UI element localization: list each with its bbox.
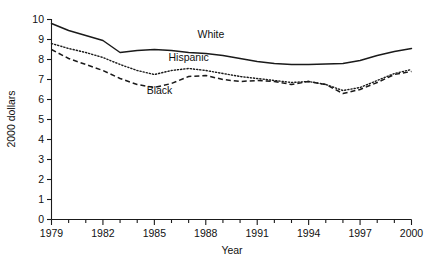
y-tick-label: 9 <box>38 33 44 45</box>
chart-figure: 012345678910 197919821985198819911994199… <box>0 0 428 262</box>
x-axis-title: Year <box>221 244 243 256</box>
series-line-hispanic <box>52 44 412 91</box>
chart-axes <box>52 19 412 220</box>
series-label-white: White <box>198 28 225 40</box>
x-axis-tick-labels: 19791982198519881991199419972000 <box>40 227 424 239</box>
y-axis-title: 2000 dollars <box>5 90 17 147</box>
line-chart-canvas: 012345678910 197919821985198819911994199… <box>0 0 428 262</box>
x-tick-label: 1979 <box>40 227 64 239</box>
y-tick-label: 5 <box>38 113 44 125</box>
x-tick-label: 1988 <box>194 227 218 239</box>
y-tick-label: 3 <box>38 153 44 165</box>
x-tick-label: 1991 <box>246 227 270 239</box>
y-tick-label: 0 <box>38 213 44 225</box>
y-tick-label: 10 <box>32 13 44 25</box>
y-axis-ticks <box>47 20 52 220</box>
y-tick-label: 8 <box>38 53 44 65</box>
y-tick-label: 1 <box>38 193 44 205</box>
series-label-hispanic: Hispanic <box>169 51 209 63</box>
series-line-black <box>52 50 412 94</box>
x-tick-label: 1997 <box>348 227 372 239</box>
y-tick-label: 4 <box>38 133 44 145</box>
y-axis-tick-labels: 012345678910 <box>32 13 44 225</box>
series-inline-labels: WhiteHispanicBlack <box>147 28 225 96</box>
series-label-black: Black <box>147 84 173 96</box>
chart-series-group <box>52 24 412 94</box>
x-axis-ticks <box>52 220 412 226</box>
y-tick-label: 2 <box>38 173 44 185</box>
y-tick-label: 7 <box>38 73 44 85</box>
y-tick-label: 6 <box>38 93 44 105</box>
x-tick-label: 1985 <box>143 227 167 239</box>
x-tick-label: 1994 <box>297 227 321 239</box>
x-tick-label: 1982 <box>91 227 115 239</box>
x-tick-label: 2000 <box>400 227 424 239</box>
